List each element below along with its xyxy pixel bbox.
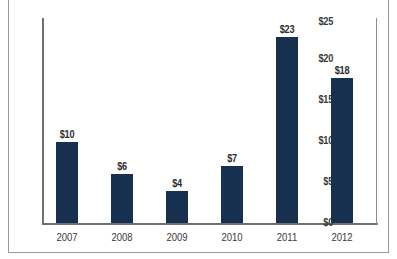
y-tick-label-2: $10 [302,136,333,146]
x-tick-label-2008: 2008 [103,232,141,243]
plot-area: $0 $5 $10 $15 $20 $25 $10 $6 $4 $7 $23 $… [42,18,378,225]
bar-2012[interactable] [331,78,353,223]
bar-2008[interactable] [111,174,133,223]
frame-left-rule [8,0,9,252]
bar-value-2008: $6 [104,162,141,172]
bar-value-2011: $23 [269,25,306,35]
bar-2011[interactable] [276,37,298,223]
bar-value-2009: $4 [159,179,196,189]
frame-right-rule [388,0,389,252]
bar-2010[interactable] [221,166,243,223]
x-tick-label-2012: 2012 [323,232,361,243]
y-tick-label-1: $5 [302,177,333,187]
chart-screenshot: $0 $5 $10 $15 $20 $25 $10 $6 $4 $7 $23 $… [0,0,397,259]
bar-value-2007: $10 [49,130,86,140]
bar-value-2010: $7 [214,154,251,164]
frame-bottom-rule [8,252,389,253]
bar-2007[interactable] [56,142,78,223]
y-tick-label-5: $25 [302,17,333,27]
x-tick-label-2009: 2009 [158,232,196,243]
y-tick-label-4: $20 [302,54,333,64]
x-tick-label-2010: 2010 [213,232,251,243]
y-tick-label-0: $0 [302,218,333,228]
bar-value-2012: $18 [324,66,361,76]
bar-2009[interactable] [166,191,188,223]
y-axis-line [42,18,44,225]
plot-right-border [376,18,377,225]
x-tick-label-2007: 2007 [48,232,86,243]
y-tick-label-3: $15 [302,95,333,105]
x-tick-label-2011: 2011 [268,232,306,243]
